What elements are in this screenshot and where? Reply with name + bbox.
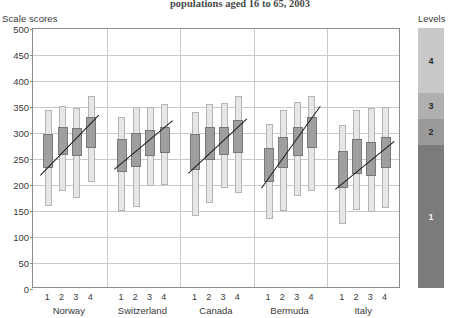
x-axis-domain-label: 1: [339, 292, 344, 302]
gridline: [33, 55, 399, 56]
legend-level-3: 3: [418, 93, 444, 119]
x-axis-domain-label: 1: [266, 292, 271, 302]
x-axis-domain-label: 3: [368, 292, 373, 302]
y-axis-tick-label: 150: [13, 206, 29, 217]
x-axis-domain-label: 4: [88, 292, 93, 302]
x-axis-domain-label: 3: [294, 292, 299, 302]
y-axis-tick-label: 300: [13, 128, 29, 139]
x-axis-domain-label: 1: [118, 292, 123, 302]
y-axis-tick-label: 200: [13, 180, 29, 191]
chart-title: populations aged 16 to 65, 2003: [90, 0, 390, 9]
levels-legend: 4321: [418, 28, 444, 288]
gridline: [33, 81, 399, 82]
gridline: [33, 237, 399, 238]
legend-level-2: 2: [418, 119, 444, 145]
plot-area: 050100150200250300350400450500: [32, 28, 400, 288]
bar-interquartile-box: [381, 137, 391, 168]
y-axis-tick-mark: [30, 185, 33, 186]
x-axis-domain-label: 4: [308, 292, 313, 302]
chart-page: populations aged 16 to 65, 2003 Scale sc…: [0, 0, 459, 318]
y-axis-tick-label: 100: [13, 232, 29, 243]
legend-caption: Levels: [418, 13, 445, 24]
group-separator: [180, 29, 181, 287]
x-axis-domain-label: 2: [59, 292, 64, 302]
x-axis-domain-label: 3: [221, 292, 226, 302]
country-label: Switzerland: [118, 305, 167, 316]
x-axis-domain-label: 4: [382, 292, 387, 302]
x-axis-domain-label: 3: [147, 292, 152, 302]
y-axis-tick-label: 50: [18, 258, 29, 269]
x-axis-domain-label: 2: [206, 292, 211, 302]
y-axis-tick-label: 500: [13, 24, 29, 35]
country-label: Norway: [53, 305, 85, 316]
y-axis-tick-label: 400: [13, 76, 29, 87]
y-axis-tick-mark: [30, 263, 33, 264]
y-axis-tick-mark: [30, 55, 33, 56]
y-axis-tick-label: 350: [13, 102, 29, 113]
bar-interquartile-box: [117, 139, 127, 172]
y-axis-tick-label: 450: [13, 50, 29, 61]
gridline: [33, 263, 399, 264]
x-axis-domain-label: 1: [45, 292, 50, 302]
y-axis-tick-label: 0: [24, 284, 29, 295]
group-separator: [254, 29, 255, 287]
y-axis-tick-mark: [30, 211, 33, 212]
country-label: Italy: [354, 305, 371, 316]
y-axis-tick-mark: [30, 237, 33, 238]
y-axis-tick-mark: [30, 133, 33, 134]
y-axis-tick-mark: [30, 81, 33, 82]
country-label: Bermuda: [270, 305, 309, 316]
y-axis-tick-mark: [30, 289, 33, 290]
x-axis-domain-label: 2: [353, 292, 358, 302]
group-separator: [107, 29, 108, 287]
y-axis-tick-mark: [30, 29, 33, 30]
x-axis-domain-label: 4: [235, 292, 240, 302]
y-axis-tick-mark: [30, 107, 33, 108]
y-axis-tick-label: 250: [13, 154, 29, 165]
y-axis-tick-mark: [30, 159, 33, 160]
group-separator: [327, 29, 328, 287]
country-label: Canada: [199, 305, 232, 316]
x-axis-domain-label: 4: [161, 292, 166, 302]
legend-level-4: 4: [418, 28, 444, 93]
x-axis-domain-label: 3: [73, 292, 78, 302]
x-axis-domain-label: 1: [192, 292, 197, 302]
legend-level-1: 1: [418, 145, 444, 288]
x-axis-domain-label: 2: [280, 292, 285, 302]
x-axis-domain-label: 2: [133, 292, 138, 302]
y-axis-caption: Scale scores: [2, 13, 58, 24]
